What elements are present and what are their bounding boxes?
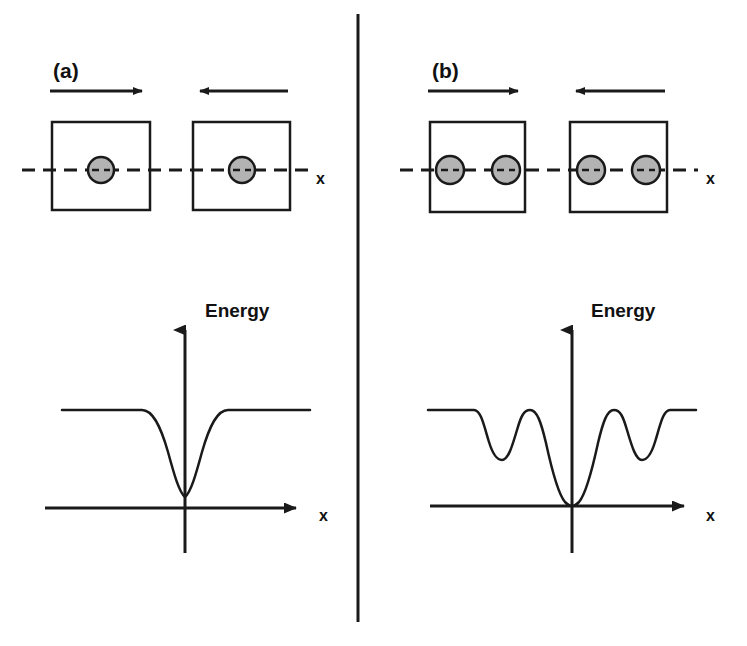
energy-curve [428,410,696,506]
panel-b-energy-plot: Energy x [428,300,715,553]
figure-root: (a) x [0,0,747,646]
particle [492,156,520,184]
figure-canvas: (a) x [0,0,747,646]
panel-a-energy-plot: Energy x [45,300,328,553]
panel-b: (b) x [400,59,715,553]
particle [88,157,114,183]
panel-a-block-right [193,122,290,210]
panel-b-block-right [570,122,667,212]
panel-a: (a) x [22,59,328,553]
energy-axis-label: Energy [591,300,656,321]
particle [436,156,464,184]
panel-b-label: (b) [432,59,459,82]
panel-b-block-left [430,122,525,212]
energy-axis-label: Energy [205,300,270,321]
x-axis-label: x [319,507,328,524]
dashed-x-axis-label: x [316,170,325,187]
particle [229,157,255,183]
particle [577,156,605,184]
particle [632,156,660,184]
panel-a-label: (a) [53,59,79,82]
panel-a-block-left [52,122,150,210]
dashed-x-axis-label: x [706,170,715,187]
x-axis-label: x [706,507,715,524]
